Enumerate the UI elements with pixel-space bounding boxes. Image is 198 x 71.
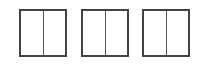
column-divider-icon [166,11,167,55]
two-column-layout-button[interactable] [142,9,190,57]
two-column-layout-button[interactable] [81,9,129,57]
two-column-layout-button[interactable] [19,9,67,57]
column-divider-icon [43,11,44,55]
column-divider-icon [105,11,106,55]
